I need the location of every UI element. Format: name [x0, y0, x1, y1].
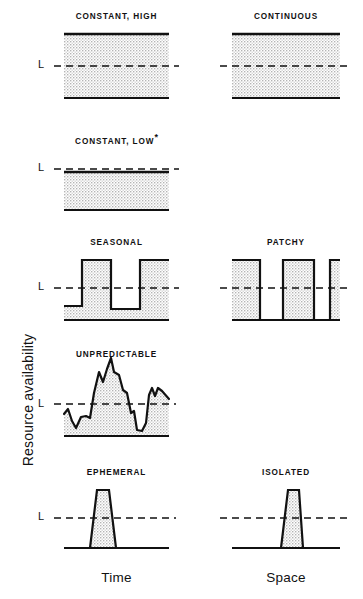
plot-area	[64, 366, 169, 444]
fill-region	[64, 172, 169, 210]
panel-constant-low: CONSTANT, LOW* L	[64, 132, 169, 222]
panel-unpredictable: UNPREDICTABLE L	[64, 350, 169, 445]
threshold-label: L	[38, 281, 44, 292]
fill-region	[64, 260, 169, 320]
panel-title: CONSTANT, LOW*	[64, 132, 169, 147]
threshold-label: L	[38, 398, 44, 409]
panel-title: EPHEMERAL	[64, 468, 169, 478]
panel-title: ISOLATED	[232, 468, 340, 478]
panel-patchy: PATCHY	[232, 238, 340, 328]
panel-seasonal: SEASONAL L	[64, 238, 169, 328]
plot-svg	[232, 32, 340, 102]
plot-svg	[232, 256, 340, 328]
plot-svg	[64, 32, 169, 102]
plot-area	[232, 32, 340, 102]
y-axis-label: Resource availability	[20, 310, 36, 490]
resource-availability-figure: Resource availability CONSTANT, HIGH L	[0, 0, 363, 599]
threshold-label: L	[38, 162, 44, 173]
plot-area	[64, 486, 169, 558]
plot-svg	[64, 486, 169, 558]
threshold-label: L	[38, 59, 44, 70]
plot-area	[232, 256, 340, 328]
panel-title-text: CONSTANT, LOW	[75, 137, 154, 146]
plot-svg	[232, 486, 340, 558]
panel-isolated: ISOLATED	[232, 468, 340, 558]
plot-area	[232, 486, 340, 558]
panel-continuous: CONTINUOUS	[232, 12, 340, 104]
plot-svg	[64, 167, 169, 217]
panel-title: PATCHY	[232, 238, 340, 248]
plot-svg	[64, 256, 169, 328]
asterisk-marker: *	[154, 132, 158, 142]
x-axis-label-time: Time	[64, 570, 169, 585]
panel-ephemeral: EPHEMERAL L	[64, 468, 169, 558]
plot-area	[64, 256, 169, 328]
plot-area	[64, 167, 169, 217]
panel-title: UNPREDICTABLE	[64, 350, 169, 360]
panel-title: SEASONAL	[64, 238, 169, 248]
panel-constant-high: CONSTANT, HIGH L	[64, 12, 169, 104]
panel-title: CONSTANT, HIGH	[64, 12, 169, 22]
x-axis-label-space: Space	[232, 570, 340, 585]
plot-area	[64, 32, 169, 102]
fill-region	[64, 358, 169, 436]
threshold-label: L	[38, 511, 44, 522]
panel-title: CONTINUOUS	[232, 12, 340, 22]
plot-svg	[64, 366, 169, 444]
fill-region	[232, 260, 340, 320]
